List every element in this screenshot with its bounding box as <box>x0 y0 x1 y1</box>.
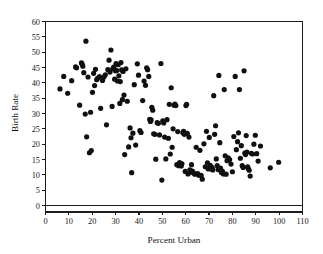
data-point <box>132 82 137 87</box>
y-tick-label: 25 <box>32 125 40 134</box>
data-point <box>135 61 140 66</box>
data-point <box>126 144 131 149</box>
data-point <box>186 135 191 140</box>
data-point <box>138 130 143 135</box>
data-point <box>268 165 273 170</box>
data-point <box>276 160 281 165</box>
data-point <box>103 72 108 77</box>
data-point <box>116 73 121 78</box>
data-point <box>127 125 132 130</box>
data-point <box>237 87 242 92</box>
x-axis-title: Percent Urban <box>148 235 201 245</box>
data-point <box>83 112 88 117</box>
data-point <box>244 150 249 155</box>
x-tick-label: 30 <box>111 217 119 226</box>
data-point <box>200 177 205 182</box>
data-point <box>145 67 150 72</box>
x-tick-label: 20 <box>88 217 96 226</box>
y-tick-label: 60 <box>32 18 40 27</box>
x-tick-label: 80 <box>228 217 236 226</box>
data-point <box>253 133 258 138</box>
data-point <box>211 93 216 98</box>
data-point <box>258 143 263 148</box>
data-point <box>241 165 246 170</box>
y-tick-label: 5 <box>36 186 40 195</box>
x-tick-label: 50 <box>158 217 166 226</box>
data-point <box>156 121 161 126</box>
chart-background <box>0 0 323 254</box>
data-point <box>136 73 141 78</box>
data-point <box>118 79 123 84</box>
data-point <box>84 134 89 139</box>
y-tick-label: 20 <box>32 140 40 149</box>
data-point <box>212 132 217 137</box>
data-point <box>210 167 215 172</box>
data-point <box>92 83 97 88</box>
data-point <box>106 58 111 63</box>
data-point <box>65 91 70 96</box>
data-point <box>167 102 172 107</box>
data-point <box>251 142 256 147</box>
x-tick-label: 100 <box>273 217 285 226</box>
x-tick-label: 10 <box>65 217 73 226</box>
data-point <box>143 83 148 88</box>
data-point <box>125 99 130 104</box>
data-point <box>166 136 171 141</box>
data-point <box>256 158 261 163</box>
data-point <box>231 134 236 139</box>
data-point <box>170 126 175 131</box>
data-point <box>123 66 128 71</box>
data-point <box>235 139 240 144</box>
data-point <box>170 145 175 150</box>
scatter-plot-figure: 051015202530354045505560 010203040506070… <box>0 0 323 254</box>
data-point <box>89 148 94 153</box>
data-point <box>236 130 241 135</box>
data-point <box>201 141 206 146</box>
data-point <box>69 78 74 83</box>
chart-canvas: 051015202530354045505560 010203040506070… <box>0 0 323 254</box>
data-point <box>217 140 222 145</box>
data-point <box>233 74 238 79</box>
data-point <box>88 110 93 115</box>
y-tick-label: 30 <box>32 110 40 119</box>
data-point <box>189 162 194 167</box>
data-point <box>222 87 227 92</box>
data-point <box>133 142 138 147</box>
x-tick-label: 70 <box>205 217 213 226</box>
data-point <box>254 151 259 156</box>
data-point <box>158 61 163 66</box>
data-point <box>184 102 189 107</box>
data-point <box>108 47 113 52</box>
data-point <box>230 169 235 174</box>
data-point <box>149 117 154 122</box>
data-point <box>81 70 86 75</box>
x-tick-label: 60 <box>182 217 190 226</box>
data-point <box>80 64 85 69</box>
data-point <box>213 123 218 128</box>
data-point <box>214 156 219 161</box>
data-point <box>146 74 151 79</box>
data-point <box>163 156 168 161</box>
data-point <box>118 60 123 65</box>
data-point <box>85 74 90 79</box>
data-point <box>197 148 202 153</box>
y-tick-label: 10 <box>32 171 40 180</box>
data-point <box>157 132 162 137</box>
y-tick-label: 55 <box>32 33 40 42</box>
data-point <box>227 157 232 162</box>
data-point <box>122 152 127 157</box>
x-tick-label: 40 <box>135 217 143 226</box>
data-point <box>168 151 173 156</box>
data-point <box>129 170 134 175</box>
data-point <box>130 131 135 136</box>
data-point <box>241 68 246 73</box>
data-point <box>248 173 253 178</box>
data-point <box>164 117 169 122</box>
x-tick-label: 110 <box>296 217 308 226</box>
data-point <box>114 68 119 73</box>
data-point <box>159 177 164 182</box>
y-tick-label: 50 <box>32 48 40 57</box>
x-tick-label: 0 <box>43 217 47 226</box>
data-point <box>153 157 158 162</box>
data-point <box>150 108 155 113</box>
